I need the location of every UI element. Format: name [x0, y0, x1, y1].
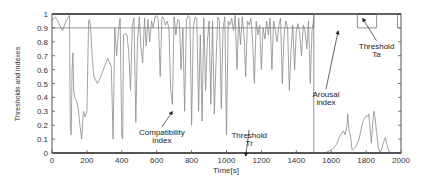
- y-tick-label: 0.6: [37, 66, 49, 75]
- plot-area: [52, 14, 401, 153]
- y-tick-label: 0.9: [37, 24, 49, 33]
- y-tick-label: 0.8: [37, 38, 49, 47]
- compatibility-index-line: [52, 15, 314, 139]
- y-tick-label: 0.4: [37, 93, 49, 102]
- y-tick-label: 1: [44, 10, 49, 19]
- annotations: CompatibilityindexThresholdTrArousalinde…: [139, 18, 394, 156]
- annotation-arrow-icon: [162, 112, 172, 127]
- svg-text:index: index: [316, 98, 335, 107]
- y-tick-label: 0.3: [37, 107, 49, 116]
- x-tick-label: 2000: [392, 156, 410, 165]
- annotation-arrow-icon: [326, 31, 338, 90]
- y-axis-label: Thresholds and indexes: [14, 46, 21, 121]
- x-tick-label: 1000: [218, 156, 236, 165]
- x-tick-label: 1600: [322, 156, 340, 165]
- x-tick-label: 1800: [357, 156, 375, 165]
- y-tick-label: 0.1: [37, 135, 49, 144]
- x-tick-label: 800: [185, 156, 199, 165]
- svg-text:Ta: Ta: [372, 50, 381, 59]
- y-tick-label: 0.5: [37, 80, 49, 89]
- chart: 00.10.20.30.40.50.60.70.80.91 0200400600…: [0, 0, 428, 176]
- arousal-index-line: [314, 111, 401, 153]
- x-tick-label: 200: [80, 156, 94, 165]
- threshold-ta-line: [52, 14, 401, 28]
- x-tick-label: 400: [115, 156, 129, 165]
- x-tick-label: 1200: [253, 156, 271, 165]
- y-tick-label: 0.7: [37, 52, 49, 61]
- annotation-arrow-icon: [363, 18, 377, 40]
- x-axis-label: Time[s]: [213, 166, 239, 175]
- x-tick-label: 1400: [287, 156, 305, 165]
- annotation: Arousalindex: [312, 31, 339, 108]
- y-tick-label: 0: [44, 149, 49, 158]
- svg-text:index: index: [152, 136, 171, 145]
- x-tick-label: 0: [50, 156, 55, 165]
- x-tick-label: 600: [150, 156, 164, 165]
- y-axis: 00.10.20.30.40.50.60.70.80.91: [37, 10, 401, 158]
- annotation: Compatibilityindex: [139, 112, 185, 145]
- y-tick-label: 0.2: [37, 121, 49, 130]
